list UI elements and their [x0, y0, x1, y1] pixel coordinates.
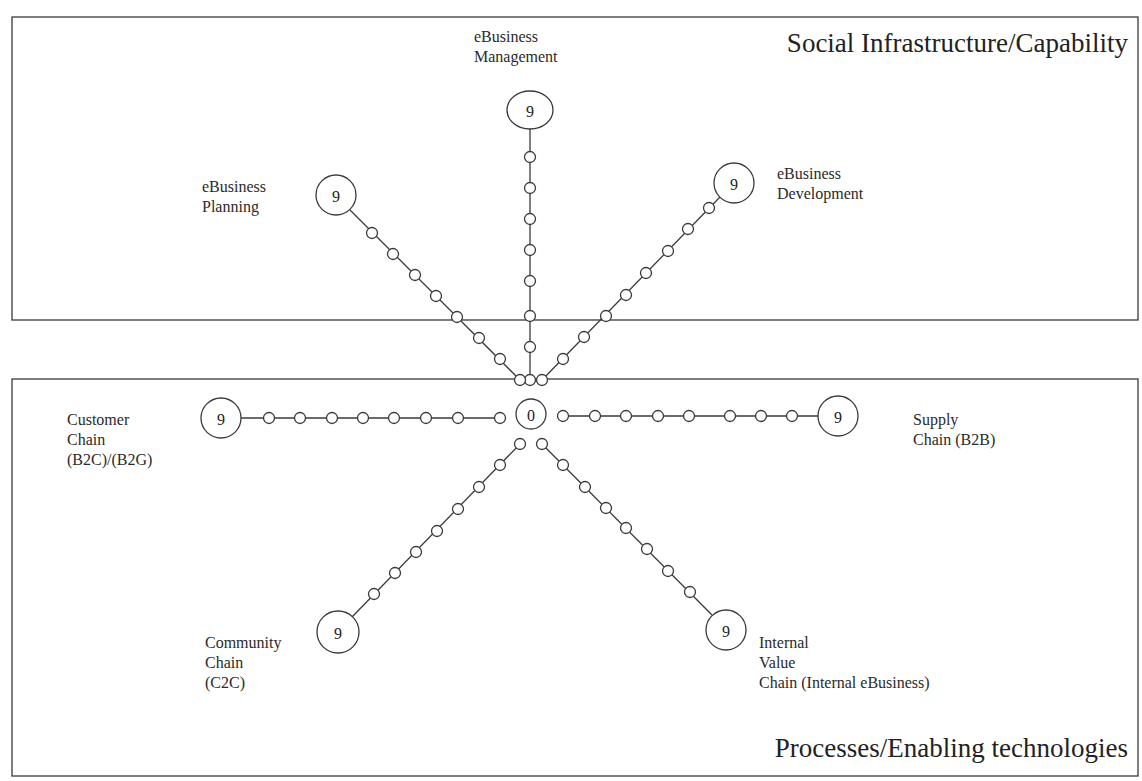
radar-diagram: 9 9 9 9 9 9 9 0 — [0, 0, 1142, 781]
label-planning: eBusiness Planning — [202, 177, 266, 217]
node-development-value: 9 — [730, 176, 738, 193]
spoke-line-development — [542, 197, 720, 380]
node-planning-value: 9 — [332, 188, 340, 205]
top-region-box — [12, 17, 1138, 320]
center-node-value: 0 — [527, 407, 535, 424]
node-supply-value: 9 — [834, 409, 842, 426]
node-internal-value: 9 — [722, 623, 730, 640]
node-community-value: 9 — [334, 625, 342, 642]
development-scale-nodes — [537, 203, 715, 386]
label-customer: Customer Chain (B2C)/(B2G) — [67, 410, 152, 470]
top-region-title: Social Infrastructure/Capability — [787, 28, 1128, 58]
label-community: Community Chain (C2C) — [205, 633, 281, 693]
node-customer-value: 9 — [217, 411, 225, 428]
label-supply: Supply Chain (B2B) — [913, 410, 995, 450]
label-internal: Internal Value Chain (Internal eBusiness… — [759, 633, 930, 693]
label-development: eBusiness Development — [777, 164, 863, 204]
label-management: eBusiness Management — [474, 27, 558, 67]
bottom-region-title: Processes/Enabling technologies — [775, 733, 1128, 763]
node-management-value: 9 — [526, 103, 534, 120]
